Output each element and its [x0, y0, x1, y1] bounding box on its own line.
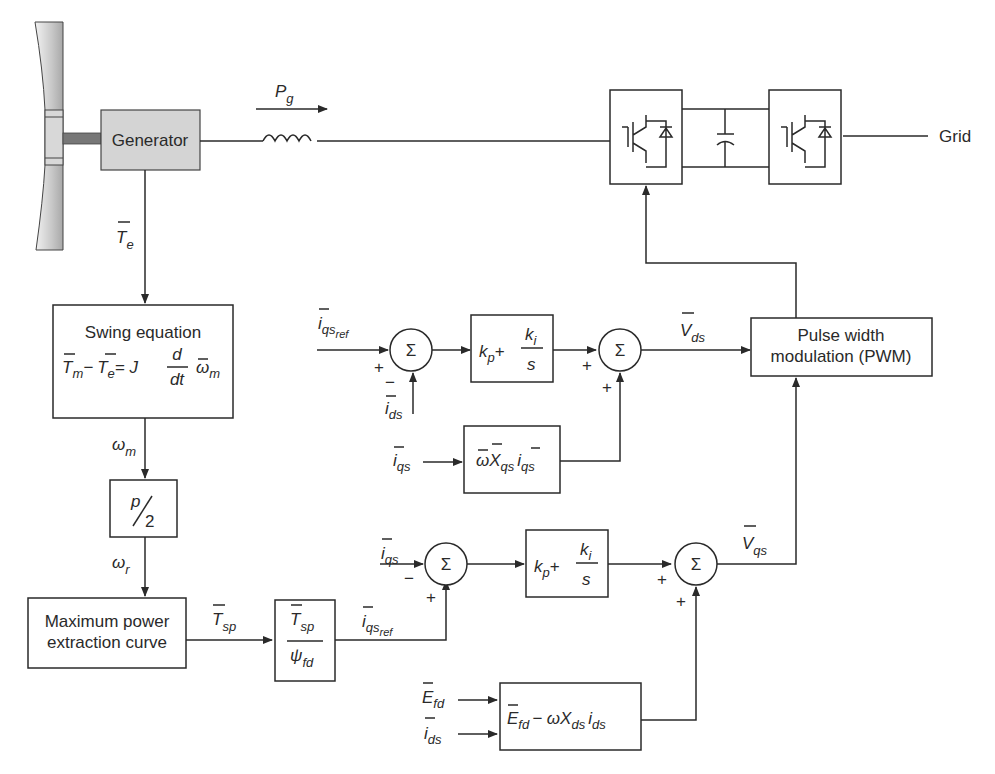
rectifier-block [610, 90, 682, 184]
swing-title: Swing equation [85, 323, 201, 342]
svg-text:Maximum power: Maximum power [45, 612, 170, 631]
wr-label: ωr [112, 553, 130, 577]
vqs-label: Vqs [742, 534, 768, 558]
dc-link [682, 109, 769, 167]
pg-label: Pg [275, 82, 294, 106]
svg-text:+: + [676, 592, 686, 611]
efd-label: Efd [422, 688, 445, 711]
svg-text:extraction curve: extraction curve [47, 633, 167, 652]
iqsref-out-label: iqsref [362, 612, 393, 638]
control-block-diagram: Generator Pg Grid Te Swing equation Tm−T… [0, 0, 995, 774]
ids-ff-label: ids [424, 724, 442, 747]
svg-text:2: 2 [145, 512, 154, 531]
svg-text:s: s [527, 355, 536, 374]
svg-text:+: + [657, 570, 667, 589]
svg-text:−: − [385, 373, 395, 392]
te-label: Te [116, 228, 134, 252]
inverter-block [769, 90, 841, 184]
grid-label: Grid [939, 127, 971, 146]
tsp-label: Tsp [212, 610, 236, 634]
svg-text:Σ: Σ [406, 341, 417, 360]
inductor-icon [263, 135, 311, 141]
svg-text:+: + [582, 356, 592, 375]
vds-label: Vds [680, 321, 706, 345]
ids-fb-label: ids [385, 399, 403, 422]
svg-text:modulation (PWM): modulation (PWM) [771, 347, 912, 366]
generator-label: Generator [112, 131, 189, 150]
wm-label: ωm [112, 435, 136, 459]
iqs-ff-label: iqs [393, 451, 411, 474]
svg-text:p: p [130, 492, 140, 511]
svg-text:s: s [582, 570, 591, 589]
svg-text:+: + [426, 588, 436, 607]
svg-text:Σ: Σ [691, 555, 702, 574]
svg-text:dt: dt [170, 370, 185, 389]
svg-text:+: + [602, 378, 612, 397]
svg-text:Pulse width: Pulse width [798, 326, 885, 345]
turbine-blade-icon [35, 22, 101, 250]
svg-text:Σ: Σ [441, 555, 452, 574]
svg-text:d: d [172, 345, 182, 364]
iqsref-in-label: iqsref [318, 314, 349, 340]
svg-text:−: − [404, 569, 414, 588]
svg-text:Σ: Σ [615, 341, 626, 360]
svg-text:+: + [374, 358, 384, 377]
